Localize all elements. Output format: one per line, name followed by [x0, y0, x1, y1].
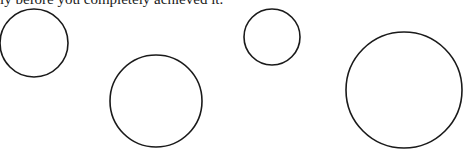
circle-3	[244, 9, 300, 65]
circle-1	[0, 9, 68, 77]
circle-2	[110, 55, 202, 147]
diagram-canvas: ly before you completely achieved it.	[0, 0, 464, 156]
circle-4	[346, 32, 462, 148]
circles-diagram	[0, 0, 464, 156]
